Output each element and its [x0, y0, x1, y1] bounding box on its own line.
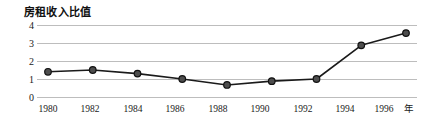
xtick-label-1988: 1988	[196, 104, 240, 115]
chart-title: 房租收入比值	[24, 6, 91, 19]
xtick-label-1982: 1982	[68, 104, 112, 115]
series-markers	[45, 30, 410, 88]
data-point-1994	[358, 42, 365, 49]
xtick-label-1984: 1984	[111, 104, 155, 115]
series-plot	[37, 25, 417, 97]
xtick-label-1996: 1996	[362, 104, 406, 115]
data-point-1996	[403, 30, 410, 37]
series-line-rent-income-ratio	[48, 33, 406, 85]
data-point-1992	[313, 76, 320, 83]
data-point-1984	[134, 70, 141, 77]
xtick-label-1986: 1986	[153, 104, 197, 115]
ytick-label-0: 0	[22, 93, 34, 103]
data-point-1980	[45, 69, 52, 76]
xtick-label-1992: 1992	[281, 104, 325, 115]
gridline-0	[37, 97, 417, 98]
data-point-1988	[224, 82, 231, 89]
xtick-label-1994: 1994	[323, 104, 367, 115]
xtick-label-1980: 1980	[26, 104, 70, 115]
ytick-label-4: 4	[22, 21, 34, 31]
ytick-label-3: 3	[22, 39, 34, 49]
data-point-1990	[268, 78, 275, 85]
rent-income-ratio-line-chart: 房租收入比值 4 3 2 1 0 1980 1982 1984 1986 198…	[0, 0, 428, 133]
x-axis-unit-label: 年	[404, 104, 414, 115]
plot-area	[37, 25, 417, 97]
xtick-label-1990: 1990	[238, 104, 282, 115]
ytick-label-2: 2	[22, 57, 34, 67]
ytick-label-1: 1	[22, 75, 34, 85]
data-point-1982	[89, 67, 96, 74]
data-point-1986	[179, 76, 186, 83]
